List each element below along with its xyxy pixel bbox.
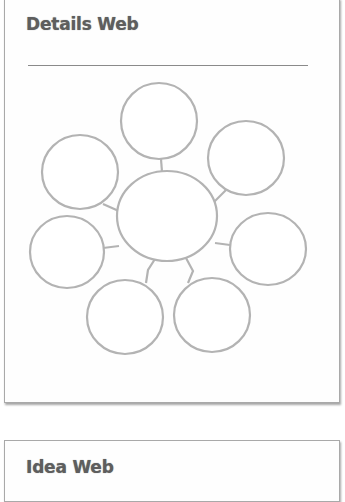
idea-web-card: Idea Web	[4, 440, 340, 502]
link-bottom-left	[146, 259, 155, 283]
bubble-right[interactable]	[230, 213, 306, 285]
bubble-left[interactable]	[30, 216, 104, 288]
web-bubbles	[30, 83, 306, 354]
link-top	[161, 159, 162, 172]
bubble-top[interactable]	[121, 83, 197, 159]
bubble-bottom-right[interactable]	[174, 278, 250, 352]
bubble-upper-left[interactable]	[42, 135, 118, 209]
link-right	[215, 243, 230, 245]
bubble-center[interactable]	[117, 171, 217, 261]
link-bottom-right	[186, 258, 193, 283]
bubble-upper-right[interactable]	[208, 121, 284, 195]
bubble-bottom-left[interactable]	[87, 280, 163, 354]
idea-web-title: Idea Web	[26, 457, 114, 477]
link-left	[103, 246, 119, 248]
